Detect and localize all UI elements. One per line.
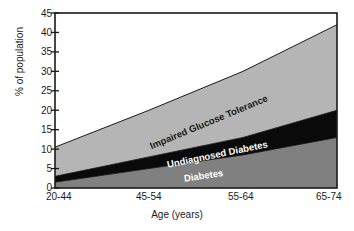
stacked-area-chart: % of population 45 40 35 30 25 20 15 10 … xyxy=(0,0,354,231)
x-tick-20-44: 20-44 xyxy=(46,191,72,202)
x-tick-55-64: 55-64 xyxy=(228,191,254,202)
x-axis-title: Age (years) xyxy=(0,209,354,220)
x-tick-65-74: 65-74 xyxy=(316,191,342,202)
x-tick-45-54: 45-54 xyxy=(136,191,162,202)
